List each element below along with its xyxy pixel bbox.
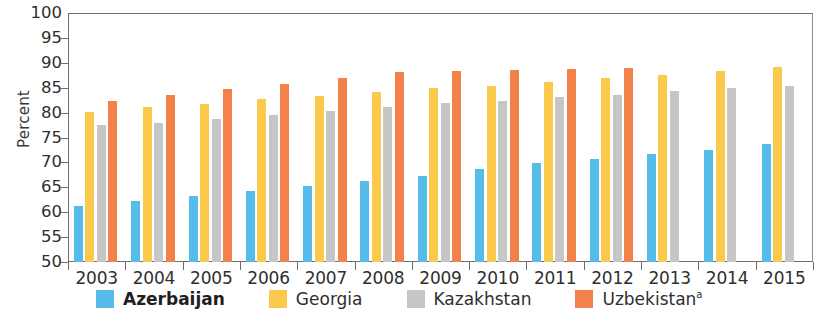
- bar-kazakhstan-2007: [326, 111, 335, 262]
- legend-label-uzbekistan: Uzbekistana: [602, 289, 702, 309]
- bar-azerbaijan-2015: [762, 144, 771, 262]
- bar-uzbekistan-2007: [338, 78, 347, 262]
- bar-kazakhstan-2011: [555, 97, 564, 262]
- bar-azerbaijan-2014: [704, 150, 713, 262]
- bar-kazakhstan-2012: [613, 95, 622, 262]
- y-axis-tick-label: 90: [16, 55, 62, 72]
- bar-uzbekistan-2005: [223, 89, 232, 262]
- y-axis-tick-label: 70: [16, 154, 62, 171]
- legend-label-azerbaijan: Azerbaijan: [123, 289, 225, 309]
- y-axis-tick-label: 60: [16, 204, 62, 221]
- x-axis-tick-mark: [813, 262, 814, 270]
- legend-swatch-azerbaijan-icon: [96, 290, 114, 308]
- bar-georgia-2004: [143, 107, 152, 262]
- bar-kazakhstan-2003: [97, 125, 106, 262]
- legend-footnote-marker: a: [696, 289, 702, 300]
- bar-georgia-2008: [372, 92, 381, 262]
- bar-georgia-2009: [429, 88, 438, 262]
- bar-azerbaijan-2012: [590, 159, 599, 262]
- bar-uzbekistan-2004: [166, 95, 175, 262]
- bar-kazakhstan-2009: [441, 103, 450, 262]
- legend-item-azerbaijan[interactable]: Azerbaijan: [96, 289, 225, 309]
- bar-uzbekistan-2009: [452, 71, 461, 262]
- x-axis-tick-label-2003: 2003: [67, 268, 127, 288]
- bar-georgia-2014: [716, 71, 725, 262]
- bar-uzbekistan-2008: [395, 72, 404, 262]
- bar-chart-figure: Percent 10095908580757065605550 20032004…: [0, 0, 819, 322]
- y-axis-tick-label: 80: [16, 104, 62, 121]
- bar-kazakhstan-2015: [785, 86, 794, 262]
- legend-label-kazakhstan: Kazakhstan: [434, 289, 532, 309]
- bar-georgia-2010: [487, 86, 496, 262]
- bar-kazakhstan-2010: [498, 101, 507, 262]
- y-axis-tick-label: 100: [16, 5, 62, 22]
- legend-label-georgia: Georgia: [296, 289, 363, 309]
- bar-azerbaijan-2006: [246, 191, 255, 262]
- bar-georgia-2013: [658, 75, 667, 262]
- bar-georgia-2003: [85, 112, 94, 262]
- bar-azerbaijan-2003: [74, 206, 83, 262]
- y-axis-tick-label: 65: [16, 179, 62, 196]
- bar-georgia-2007: [315, 96, 324, 262]
- x-axis-tick-label-2011: 2011: [525, 268, 585, 288]
- legend-swatch-uzbekistan-icon: [575, 290, 593, 308]
- bar-azerbaijan-2013: [647, 154, 656, 262]
- bar-georgia-2012: [601, 78, 610, 262]
- bar-uzbekistan-2012: [624, 68, 633, 262]
- bar-uzbekistan-2011: [567, 69, 576, 262]
- x-axis-tick-label-2013: 2013: [640, 268, 700, 288]
- x-axis-tick-label-2005: 2005: [181, 268, 241, 288]
- bar-uzbekistan-2010: [510, 70, 519, 262]
- bar-azerbaijan-2004: [131, 201, 140, 262]
- y-axis-tick-label: 50: [16, 254, 62, 271]
- x-axis-tick-label-2004: 2004: [124, 268, 184, 288]
- bar-georgia-2005: [200, 104, 209, 262]
- bar-azerbaijan-2008: [360, 181, 369, 262]
- x-axis-tick-label-2014: 2014: [697, 268, 757, 288]
- chart-legend: AzerbaijanGeorgiaKazakhstanUzbekistana: [96, 289, 703, 309]
- y-axis-tick-label: 55: [16, 229, 62, 246]
- bar-kazakhstan-2006: [269, 115, 278, 262]
- y-axis-tick-label: 95: [16, 30, 62, 47]
- x-axis-tick-label-2006: 2006: [239, 268, 299, 288]
- bar-uzbekistan-2006: [280, 84, 289, 262]
- bar-azerbaijan-2011: [532, 163, 541, 262]
- legend-item-georgia[interactable]: Georgia: [269, 289, 363, 309]
- bar-kazakhstan-2013: [670, 91, 679, 262]
- x-axis-tick-label-2010: 2010: [468, 268, 528, 288]
- bar-azerbaijan-2005: [189, 196, 198, 262]
- legend-swatch-kazakhstan-icon: [407, 290, 425, 308]
- bar-azerbaijan-2009: [418, 176, 427, 262]
- x-axis-tick-label-2012: 2012: [582, 268, 642, 288]
- bar-kazakhstan-2005: [212, 119, 221, 262]
- x-axis-tick-label-2009: 2009: [411, 268, 471, 288]
- x-axis-tick-label-2008: 2008: [353, 268, 413, 288]
- y-axis-tick-label: 75: [16, 129, 62, 146]
- bar-kazakhstan-2008: [383, 107, 392, 262]
- y-axis-tick-label: 85: [16, 79, 62, 96]
- x-axis-tick-label-2015: 2015: [754, 268, 814, 288]
- bar-uzbekistan-2003: [108, 101, 117, 262]
- bar-kazakhstan-2014: [727, 88, 736, 262]
- bar-georgia-2006: [257, 99, 266, 262]
- bar-azerbaijan-2007: [303, 186, 312, 262]
- bar-georgia-2015: [773, 67, 782, 262]
- x-axis-tick-label-2007: 2007: [296, 268, 356, 288]
- legend-item-kazakhstan[interactable]: Kazakhstan: [407, 289, 532, 309]
- legend-item-uzbekistan[interactable]: Uzbekistana: [575, 289, 702, 309]
- bar-azerbaijan-2010: [475, 169, 484, 262]
- bar-georgia-2011: [544, 82, 553, 262]
- bar-kazakhstan-2004: [154, 123, 163, 262]
- legend-swatch-georgia-icon: [269, 290, 287, 308]
